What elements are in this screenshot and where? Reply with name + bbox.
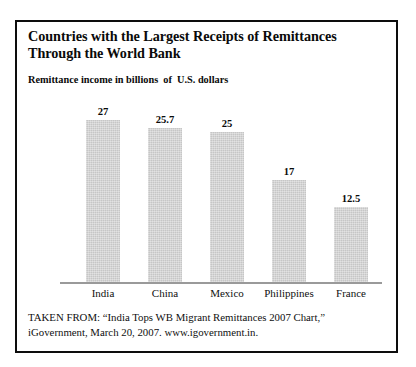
source-line-2: iGovernment, March 20, 2007. www.igovern…	[28, 325, 387, 340]
source-attribution: TAKEN FROM: “India Tops WB Migrant Remit…	[28, 310, 387, 339]
bar-slot-france: 12.5	[320, 100, 382, 282]
bar-value-label: 17	[284, 166, 295, 177]
x-axis-line	[60, 282, 382, 284]
x-tick-label-france: France	[320, 286, 382, 300]
bar-philippines	[272, 180, 306, 282]
chart-title-line-1: Countries with the Largest Receipts of R…	[28, 28, 337, 44]
chart-title-line-2: Through the World Bank	[28, 45, 181, 61]
source-line-1: TAKEN FROM: “India Tops WB Migrant Remit…	[28, 310, 387, 325]
bar-value-label: 25.7	[156, 114, 175, 125]
x-tick-label-philippines: Philippines	[258, 286, 320, 300]
heading-block: Countries with the Largest Receipts of R…	[28, 28, 386, 86]
figure-frame: Countries with the Largest Receipts of R…	[15, 20, 398, 353]
page-title: Countries with the Largest Receipts of R…	[28, 28, 386, 62]
x-axis-tick-labels: India China Mexico Philippines France	[60, 286, 382, 300]
bar-slot-india: 27	[72, 100, 134, 282]
x-tick-label-mexico: Mexico	[196, 286, 258, 300]
bar-france	[334, 207, 368, 282]
x-tick-label-india: India	[72, 286, 134, 300]
bar-value-label: 27	[98, 106, 109, 117]
bar-mexico	[210, 132, 244, 282]
bar-slot-philippines: 17	[258, 100, 320, 282]
bar-india	[86, 120, 120, 282]
chart-subtitle: Remittance income in billions of U.S. do…	[28, 73, 386, 86]
bar-series: 27 25.7 25 17 12.5	[60, 100, 382, 282]
bar-value-label: 12.5	[342, 193, 361, 204]
bar-slot-mexico: 25	[196, 100, 258, 282]
bar-china	[148, 128, 182, 282]
chart-plot-area: 27 25.7 25 17 12.5	[60, 100, 382, 282]
bar-slot-china: 25.7	[134, 100, 196, 282]
bar-value-label: 25	[222, 118, 233, 129]
x-tick-label-china: China	[134, 286, 196, 300]
